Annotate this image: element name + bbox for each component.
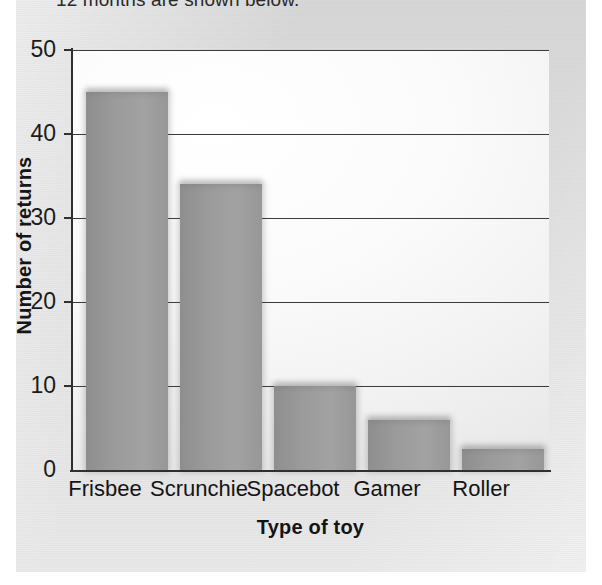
y-axis-title: Number of returns [13, 126, 36, 366]
x-axis-title: Type of toy [72, 516, 549, 539]
scanned-page: 12 months are shown below. 50 40 30 [0, 0, 602, 585]
x-tick-label-roller: Roller [421, 478, 541, 500]
bar-chart: 50 40 30 20 10 0 Number of returns Frisb… [0, 0, 570, 572]
y-tick-label-50: 50 [4, 38, 56, 61]
y-tick-label-10: 10 [4, 374, 56, 397]
